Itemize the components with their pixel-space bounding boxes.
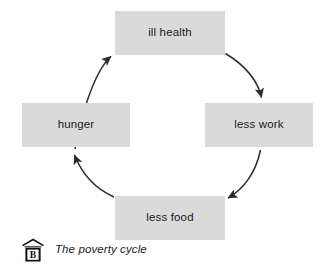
cycle-node-less-work: less work <box>205 103 313 147</box>
caption-icon-letter: B <box>30 249 37 260</box>
cycle-node-hunger: hunger <box>22 103 130 147</box>
arrow-ill-health-to-less-work <box>226 54 262 98</box>
figure-caption: B The poverty cycle <box>20 237 147 263</box>
poverty-cycle-figure: ill health less work less food hunger B … <box>0 0 324 268</box>
cycle-node-ill-health: ill health <box>115 11 225 55</box>
cycle-node-label: less work <box>234 119 283 131</box>
arrow-less-food-to-hunger <box>75 155 115 197</box>
arrow-less-work-to-less-food <box>228 150 261 198</box>
figure-caption-text: The poverty cycle <box>55 244 147 256</box>
cycle-node-label: ill health <box>148 27 192 39</box>
cycle-node-label: hunger <box>58 119 95 131</box>
cycle-node-less-food: less food <box>115 196 225 240</box>
house-label-b-icon: B <box>20 237 46 263</box>
cycle-node-label: less food <box>146 212 193 224</box>
